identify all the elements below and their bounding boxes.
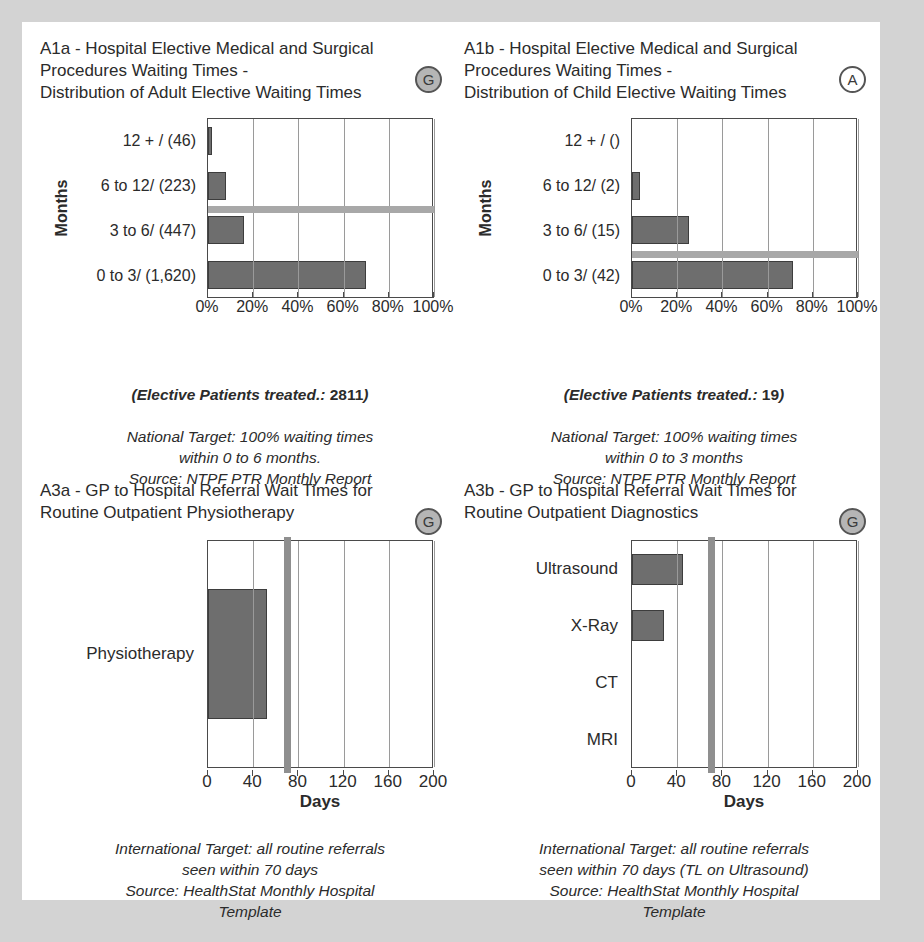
chart-a3a-bar (208, 589, 267, 719)
panel-a1b: A1b - Hospital Elective Medical and Surg… (464, 38, 884, 478)
chart-a3a-gridline (344, 541, 345, 767)
chart-a3a-x-axis-title: Days (207, 792, 433, 812)
panel-a1b-treated-close: ) (779, 386, 784, 403)
chart-a3a-gridline (298, 541, 299, 767)
panel-a1a: A1a - Hospital Elective Medical and Surg… (40, 38, 460, 478)
chart-a1a-bar-row (208, 119, 432, 164)
panel-a1b-status-badge: A (839, 66, 866, 93)
chart-a1b-category-label: 3 to 6/ (15) (464, 208, 627, 253)
chart-a3a: Physiotherapy 04080120160200 Days (40, 540, 460, 808)
chart-a3b-bar-row (632, 654, 856, 711)
panel-a1a-caption: (Elective Patients treated.: 2811) Natio… (40, 363, 460, 489)
chart-a1a-category-labels: 12 + / (46)6 to 12/ (223)3 to 6/ (447)0 … (40, 118, 203, 298)
chart-a3b-category-label: Ultrasound (464, 540, 627, 597)
chart-a1b-x-tick (721, 292, 722, 298)
chart-a1a-plot-area (207, 118, 433, 298)
chart-a1b-x-tick (767, 292, 768, 298)
panel-a3a-title: A3a - GP to Hospital Referral Wait Times… (40, 480, 460, 524)
chart-a1a-x-tick (433, 292, 434, 298)
panel-a1b-caption: (Elective Patients treated.: 19) Nationa… (464, 363, 884, 489)
chart-a1a: Months 12 + / (46)6 to 12/ (223)3 to 6/ … (40, 118, 460, 333)
chart-a1a-x-tick (388, 292, 389, 298)
chart-a1b-bar-row (632, 253, 856, 298)
chart-a1a-bar (208, 216, 244, 244)
chart-a3b-x-axis-title: Days (631, 792, 857, 812)
chart-a3b-gridline (768, 541, 769, 767)
chart-a1b-target-line (632, 251, 858, 258)
panel-a1b-treated-line: (Elective Patients treated.: 19) (464, 384, 884, 405)
chart-a1a-bar (208, 261, 366, 289)
chart-a3b-x-tick (721, 770, 722, 776)
chart-a1b-category-label: 12 + / () (464, 118, 627, 163)
panel-a3b: A3b - GP to Hospital Referral Wait Times… (464, 480, 884, 900)
chart-a3a-x-axis: 04080120160200 (207, 770, 433, 794)
chart-a3a-x-tick (433, 770, 434, 776)
chart-a1b-gridline (768, 119, 769, 297)
chart-a3a-gridline (389, 541, 390, 767)
chart-a3b-category-label: CT (464, 654, 627, 711)
chart-a3a-category-labels: Physiotherapy (40, 540, 203, 768)
chart-a1a-bar-row (208, 253, 432, 298)
chart-a1a-bar (208, 127, 212, 155)
chart-a3b-category-label: MRI (464, 711, 627, 768)
chart-a3a-bars (208, 541, 432, 767)
chart-a3b-bars (632, 541, 856, 767)
panel-a1b-treated-label: (Elective Patients treated.: (564, 386, 762, 403)
chart-a1b-x-tick-label: 20% (660, 298, 692, 316)
chart-a3a-x-tick (297, 770, 298, 776)
panel-a1a-treated-close: ) (363, 386, 368, 403)
panel-a3b-title: A3b - GP to Hospital Referral Wait Times… (464, 480, 884, 524)
chart-a1b: Months 12 + / ()6 to 12/ (2)3 to 6/ (15)… (464, 118, 884, 333)
panel-a3b-status-badge: G (839, 508, 866, 535)
chart-a1b-x-tick-label: 80% (796, 298, 828, 316)
chart-a3b-x-tick (767, 770, 768, 776)
chart-a3a-target-line (284, 537, 291, 773)
chart-a3a-gridline (434, 541, 435, 767)
chart-a1b-bar-row (632, 119, 856, 164)
chart-a1b-x-tick (857, 292, 858, 298)
chart-a1b-bar (632, 261, 793, 289)
panel-a1a-treated-line: (Elective Patients treated.: 2811) (40, 384, 460, 405)
chart-a3b-category-label: X-Ray (464, 597, 627, 654)
panel-a3a-caption: International Target: all routine referr… (40, 838, 460, 922)
chart-a1a-target-line (208, 206, 434, 213)
chart-a1b-category-label: 6 to 12/ (2) (464, 163, 627, 208)
chart-a3a-bar-row (208, 541, 432, 767)
chart-a1b-x-tick-label: 0% (619, 298, 642, 316)
chart-a3b-x-tick (857, 770, 858, 776)
chart-a3b-bar (632, 554, 683, 585)
panel-a3a-status-badge: G (415, 508, 442, 535)
chart-a1a-x-tick-label: 20% (236, 298, 268, 316)
chart-a1b-bar-row (632, 208, 856, 253)
chart-a3b-x-tick (631, 770, 632, 776)
chart-a1b-gridline (858, 119, 859, 297)
chart-a3a-x-tick (388, 770, 389, 776)
chart-a3b-bar-row (632, 598, 856, 655)
chart-a1b-plot-area (631, 118, 857, 298)
chart-a1a-x-tick-label: 80% (372, 298, 404, 316)
chart-a3b-x-tick (676, 770, 677, 776)
chart-a3b-gridline (813, 541, 814, 767)
chart-a1a-x-tick (343, 292, 344, 298)
chart-a1a-category-label: 3 to 6/ (447) (40, 208, 203, 253)
chart-a1a-x-tick-label: 60% (327, 298, 359, 316)
panel-a3a: A3a - GP to Hospital Referral Wait Times… (40, 480, 460, 900)
panel-a1b-treated-value: 19 (762, 386, 779, 403)
report-page: A1a - Hospital Elective Medical and Surg… (22, 22, 880, 900)
chart-a3b-gridline (677, 541, 678, 767)
chart-a3b-gridline (722, 541, 723, 767)
chart-a1a-category-label: 0 to 3/ (1,620) (40, 253, 203, 298)
chart-a1b-x-tick (631, 292, 632, 298)
chart-a1b-x-tick-label: 100% (837, 298, 878, 316)
panel-a1a-caption-rest: National Target: 100% waiting times with… (127, 428, 374, 487)
chart-a3b-x-axis: 04080120160200 (631, 770, 857, 794)
chart-a3b-x-tick (812, 770, 813, 776)
chart-a3a-category-label: Physiotherapy (40, 540, 203, 768)
chart-a1b-x-tick (676, 292, 677, 298)
panel-a1a-status-badge: G (415, 66, 442, 93)
chart-a1a-x-tick-label: 40% (281, 298, 313, 316)
panel-grid: A1a - Hospital Elective Medical and Surg… (22, 22, 880, 900)
chart-a1a-x-tick-label: 100% (413, 298, 454, 316)
chart-a1b-category-label: 0 to 3/ (42) (464, 253, 627, 298)
panel-a1b-caption-rest: National Target: 100% waiting times with… (551, 428, 798, 487)
